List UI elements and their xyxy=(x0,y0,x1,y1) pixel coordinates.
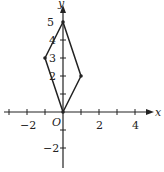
coordinate-plane: x y O −2 2 4 −2 2 3 4 5 xyxy=(0,0,164,172)
origin-label: O xyxy=(52,116,61,129)
y-tick-label-5: 5 xyxy=(47,16,54,29)
y-tick-label-3: 3 xyxy=(49,52,56,65)
x-tick-label-4: 4 xyxy=(132,119,139,132)
y-axis-label: y xyxy=(57,0,65,10)
x-axis-label: x xyxy=(155,106,162,119)
y-tick-label-2: 2 xyxy=(49,70,56,83)
y-tick-label-4: 4 xyxy=(49,34,56,47)
y-tick-label-neg2: −2 xyxy=(43,142,59,155)
x-axis-arrow-icon xyxy=(146,109,154,115)
x-tick-label-neg2: −2 xyxy=(20,119,36,132)
x-tick-label-2: 2 xyxy=(96,119,103,132)
